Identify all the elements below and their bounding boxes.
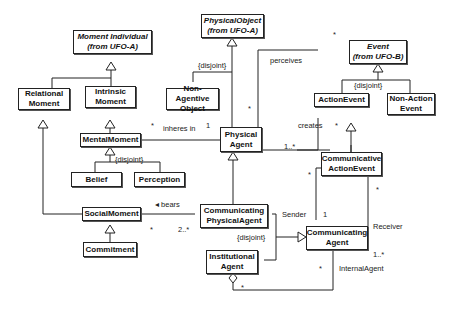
class-name: MentalMoment	[83, 135, 139, 145]
class-social-moment[interactable]: SocialMoment	[82, 207, 141, 221]
class-name: Moment Individual	[77, 32, 147, 42]
assoc-receiver-event-mult: *	[376, 185, 379, 194]
class-name-line2: Event	[400, 104, 422, 114]
class-physical-object[interactable]: PhysicalObject (from UFO-A)	[201, 14, 264, 38]
class-name: SocialMoment	[84, 209, 138, 219]
class-package: (from UFO-A)	[207, 26, 258, 36]
constraint-disjoint-event: {disjoint}	[354, 81, 382, 90]
assoc-creates-mult-agent: 1..*	[284, 142, 295, 151]
class-name: Intrinsic	[95, 87, 126, 97]
class-communicating-agent[interactable]: Communicating Agent	[306, 226, 368, 250]
class-name: Physical	[225, 130, 257, 140]
assoc-perceives-mult-agent: *	[248, 104, 251, 113]
assoc-creates-label: creates	[298, 121, 323, 130]
class-name: PhysicalObject	[204, 16, 261, 26]
class-name: Non-Agentive	[167, 84, 218, 104]
assoc-sender-event-mult: *	[308, 170, 311, 179]
class-name-line2: Agent	[326, 238, 349, 248]
assoc-receiver-label: Receiver	[373, 222, 403, 231]
class-name-line2: Agent	[230, 140, 253, 150]
uml-class-diagram: Moment Individual (from UFO-A) PhysicalO…	[0, 0, 455, 310]
assoc-creates-mult-event: *	[335, 121, 338, 130]
class-communicating-physical-agent[interactable]: Communicating PhysicalAgent	[200, 204, 268, 228]
class-name: Communicating	[307, 228, 367, 238]
class-intrinsic-moment[interactable]: Intrinsic Moment	[85, 86, 136, 108]
constraint-disjoint-physical-object: {disjoint}	[198, 61, 226, 70]
assoc-sender-mult: 1	[323, 210, 327, 219]
class-name: Belief	[86, 175, 108, 185]
class-name: Communicating	[204, 206, 264, 216]
assoc-perceives-label: perceives	[270, 56, 302, 65]
class-name: Communicative	[322, 154, 382, 164]
class-package: (from UFO-B)	[353, 52, 404, 62]
class-name: Perception	[139, 175, 180, 185]
class-name: Event	[367, 42, 389, 52]
assoc-inheres-mult-one: 1	[206, 121, 210, 130]
class-name-line2: Agent	[221, 262, 244, 272]
class-name-line2: Object	[180, 104, 205, 114]
class-perception[interactable]: Perception	[134, 172, 185, 187]
assoc-internal-mult: *	[319, 264, 322, 273]
class-name-line2: Moment	[95, 97, 126, 107]
class-relational-moment[interactable]: Relational Moment	[18, 88, 70, 110]
class-non-agentive-object[interactable]: Non-Agentive Object	[166, 88, 219, 110]
class-action-event[interactable]: ActionEvent	[314, 93, 369, 107]
assoc-receiver-mult: 1..*	[373, 250, 384, 259]
class-institutional-agent[interactable]: Institutional Agent	[206, 250, 258, 274]
class-name: Relational	[25, 89, 63, 99]
class-name-line2: ActionEvent	[328, 164, 375, 174]
class-name-line2: Moment	[29, 99, 60, 109]
assoc-sender-label: Sender	[282, 210, 306, 219]
assoc-inheres-in-label: inheres in	[163, 124, 196, 133]
class-communicative-action-event[interactable]: Communicative ActionEvent	[321, 152, 382, 176]
class-name: Institutional	[209, 252, 254, 262]
class-package: (from UFO-A)	[87, 42, 138, 52]
constraint-disjoint-agent: {disjoint}	[237, 233, 265, 242]
assoc-perceives-mult-event: *	[333, 30, 336, 39]
class-name: Non-Action	[389, 94, 432, 104]
assoc-inheres-mult-many: *	[151, 121, 154, 130]
class-event[interactable]: Event (from UFO-B)	[349, 40, 407, 64]
class-physical-agent[interactable]: Physical Agent	[220, 127, 262, 152]
class-name-line2: PhysicalAgent	[206, 216, 261, 226]
class-belief[interactable]: Belief	[71, 172, 122, 187]
class-mental-moment[interactable]: MentalMoment	[80, 133, 141, 147]
class-commitment[interactable]: Commitment	[83, 242, 137, 257]
assoc-internal-mult-inst: *	[241, 283, 244, 292]
class-moment-individual[interactable]: Moment Individual (from UFO-A)	[73, 30, 152, 54]
class-name: ActionEvent	[318, 95, 365, 105]
assoc-internal-agent-label: InternalAgent	[339, 264, 384, 273]
assoc-bears-mult-moment: *	[150, 225, 153, 234]
assoc-bears-mult-agent: 2..*	[178, 225, 189, 234]
assoc-bears-label: ◂ bears	[155, 200, 180, 209]
class-name: Commitment	[86, 245, 135, 255]
constraint-disjoint-mental: {disjoint}	[115, 155, 143, 164]
class-non-action-event[interactable]: Non-Action Event	[387, 93, 435, 115]
